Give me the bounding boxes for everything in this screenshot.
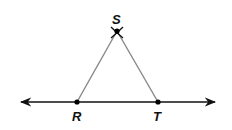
label-t: T: [153, 109, 162, 124]
label-r: R: [72, 109, 82, 124]
point-s: [114, 28, 119, 33]
segment-st: [117, 31, 158, 102]
point-r: [74, 99, 79, 104]
point-t: [155, 99, 160, 104]
diagram-canvas: S R T: [0, 0, 232, 130]
segment-rs: [77, 31, 117, 102]
label-s: S: [112, 12, 121, 27]
